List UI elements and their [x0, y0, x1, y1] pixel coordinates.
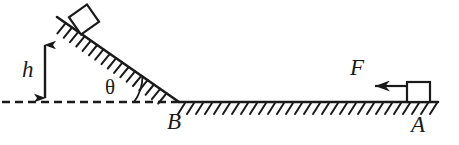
ground-hatching [178, 103, 437, 114]
physics-diagram-canvas: h θ B A F [0, 0, 459, 145]
angle-label: θ [105, 77, 115, 98]
point-a-label: A [411, 113, 425, 136]
height-label: h [22, 58, 34, 81]
block-a [407, 82, 430, 102]
diagram-vector-layer [0, 0, 459, 145]
point-b-label: B [167, 110, 181, 133]
force-label: F [350, 56, 364, 79]
